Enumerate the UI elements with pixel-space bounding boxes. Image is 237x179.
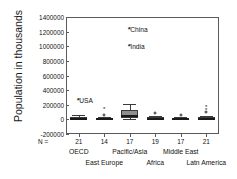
y-axis-tick-label: 1200000 <box>20 28 64 35</box>
category-label-middle-east: Middle East <box>163 148 199 155</box>
plot-area: *******USA*China*India <box>66 17 219 134</box>
y-axis-tick-label: 1400000 <box>20 14 64 21</box>
n-prefix-label: N = <box>38 138 48 145</box>
category-label-east-europe: East Europe <box>86 159 123 166</box>
category-label-oecd: OECD <box>69 148 89 155</box>
box-median-line <box>70 118 87 121</box>
box-whisker-cap-lower <box>123 119 136 120</box>
n-count-value: 17 <box>126 138 133 145</box>
y-axis-tick-mark <box>66 134 69 135</box>
x-axis-tick-mark <box>206 134 207 137</box>
n-count-value: 17 <box>177 138 184 145</box>
n-count-value: 21 <box>75 138 82 145</box>
y-axis-tick-label: 800000 <box>20 57 64 64</box>
y-axis-tick-label: -200000 <box>20 131 64 138</box>
x-axis-tick-mark <box>104 134 105 137</box>
x-axis-tick-mark <box>155 134 156 137</box>
box-median-line <box>198 118 215 121</box>
y-axis-tick-label: 0 <box>20 116 64 123</box>
x-axis-tick-mark <box>79 134 80 137</box>
y-axis-tick-label: 400000 <box>20 87 64 94</box>
box-whisker-cap-upper <box>123 104 136 105</box>
n-count-value: 21 <box>203 138 210 145</box>
x-axis-tick-mark <box>130 134 131 137</box>
n-count-value: 19 <box>152 138 159 145</box>
y-axis-tick-label: 1000000 <box>20 43 64 50</box>
y-axis-tick-label: 600000 <box>20 72 64 79</box>
box-median-line <box>172 118 189 121</box>
annotation-usa: *USA <box>77 97 93 104</box>
box-median-line <box>121 115 138 118</box>
outlier-circle-marker <box>205 111 208 114</box>
annotation-india: *India <box>128 42 145 49</box>
box-plot-chart: Population in thousands 1400000120000010… <box>0 0 237 179</box>
annotation-china: *China <box>128 26 148 33</box>
x-axis-tick-mark <box>181 134 182 137</box>
category-label-latn-america: Latn America <box>186 159 226 166</box>
outlier-star-marker: * <box>103 106 105 112</box>
y-axis-tick-label: 200000 <box>20 101 64 108</box>
category-label-pacific-asia: Pacific/Asia <box>112 148 147 155</box>
box-median-line <box>96 118 113 121</box>
outlier-circle-marker <box>103 114 106 117</box>
box-median-line <box>147 118 164 121</box>
outlier-circle-marker <box>179 113 182 116</box>
n-count-value: 14 <box>101 138 108 145</box>
outlier-circle-marker <box>154 112 157 115</box>
category-label-africa: Africa <box>147 159 164 166</box>
